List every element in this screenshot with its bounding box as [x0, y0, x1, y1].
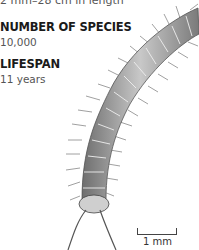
millipede-head	[79, 195, 109, 213]
scale-label: 1 mm	[143, 236, 172, 247]
scale-bar	[137, 228, 177, 235]
millipede-illustration	[0, 0, 199, 250]
antennae	[68, 210, 116, 250]
